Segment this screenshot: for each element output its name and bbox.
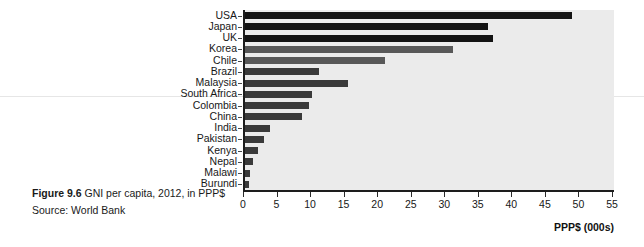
category-tick: [238, 184, 242, 185]
bar-row: [245, 145, 614, 156]
bar-malawi: [245, 170, 250, 177]
bar-row: [245, 33, 614, 44]
bar-row: [245, 21, 614, 32]
x-tick-5: [277, 192, 278, 197]
category-label-japan: Japan: [110, 21, 237, 32]
bar-row: [245, 134, 614, 145]
x-tick-label-0: 0: [240, 198, 246, 210]
x-tick-label-20: 20: [371, 198, 383, 210]
category-tick: [238, 72, 242, 73]
bar-colombia: [245, 102, 309, 109]
x-tick-label-25: 25: [405, 198, 417, 210]
x-tick-35: [478, 192, 479, 197]
x-tick-20: [377, 192, 378, 197]
category-label-usa: USA: [110, 10, 237, 21]
bar-chile: [245, 57, 385, 64]
bar-kenya: [245, 147, 258, 154]
bar-china: [245, 113, 302, 120]
bar-burundi: [245, 181, 249, 188]
category-tick: [238, 27, 242, 28]
bar-japan: [245, 23, 488, 30]
x-tick-label-10: 10: [304, 198, 316, 210]
category-tick: [238, 173, 242, 174]
category-tick: [238, 162, 242, 163]
category-tick: [238, 94, 242, 95]
x-tick-label-5: 5: [274, 198, 280, 210]
bar-row: [245, 168, 614, 179]
category-label-south-africa: South Africa: [110, 88, 237, 99]
category-label-pakistan: Pakistan: [110, 133, 237, 144]
category-tick: [238, 61, 242, 62]
x-tick-25: [411, 192, 412, 197]
bar-south-africa: [245, 91, 312, 98]
bar-row: [245, 66, 614, 77]
bar-series: [245, 10, 614, 190]
bar-row: [245, 78, 614, 89]
x-tick-label-55: 55: [606, 198, 618, 210]
bar-row: [245, 89, 614, 100]
category-tick: [238, 128, 242, 129]
bar-row: [245, 10, 614, 21]
bar-row: [245, 44, 614, 55]
x-axis-title: PPP$ (000s): [554, 221, 614, 233]
figure-title: GNI per capita, 2012, in PPP$: [82, 187, 226, 199]
category-label-colombia: Colombia: [110, 100, 237, 111]
x-tick-0: [243, 192, 244, 197]
x-tick-15: [344, 192, 345, 197]
category-tick: [238, 49, 242, 50]
x-tick-50: [578, 192, 579, 197]
category-label-chile: Chile: [110, 55, 237, 66]
x-tick-55: [612, 192, 613, 197]
figure-number: Figure 9.6: [32, 187, 82, 199]
x-tick-label-50: 50: [573, 198, 585, 210]
category-axis-labels: USAJapanUKKoreaChileBrazilMalaysiaSouth …: [110, 10, 237, 190]
bar-malaysia: [245, 80, 348, 87]
bar-row: [245, 55, 614, 66]
category-tick: [238, 117, 242, 118]
figure-caption: Figure 9.6 GNI per capita, 2012, in PPP$…: [32, 186, 232, 218]
x-tick-label-15: 15: [338, 198, 350, 210]
bar-pakistan: [245, 136, 264, 143]
x-tick-45: [545, 192, 546, 197]
bar-korea: [245, 46, 453, 53]
x-tick-40: [511, 192, 512, 197]
bar-uk: [245, 35, 493, 42]
category-label-kenya: Kenya: [110, 145, 237, 156]
bar-nepal: [245, 158, 253, 165]
x-tick-label-40: 40: [506, 198, 518, 210]
bar-usa: [245, 12, 572, 19]
category-tick: [238, 38, 242, 39]
x-tick-label-30: 30: [438, 198, 450, 210]
x-tick-10: [310, 192, 311, 197]
figure-source: Source: World Bank: [32, 203, 232, 219]
category-tick: [238, 83, 242, 84]
x-tick-label-45: 45: [539, 198, 551, 210]
bar-row: [245, 179, 614, 190]
category-tick: [238, 16, 242, 17]
category-tick: [238, 106, 242, 107]
plot-area: [243, 10, 614, 190]
x-axis-line: [243, 190, 614, 192]
bar-india: [245, 125, 270, 132]
x-tick-30: [444, 192, 445, 197]
bar-brazil: [245, 68, 319, 75]
bar-row: [245, 123, 614, 134]
x-tick-label-35: 35: [472, 198, 484, 210]
bar-row: [245, 100, 614, 111]
bar-row: [245, 111, 614, 122]
category-tick: [238, 139, 242, 140]
category-tick: [238, 151, 242, 152]
category-label-korea: Korea: [110, 43, 237, 54]
bar-row: [245, 156, 614, 167]
